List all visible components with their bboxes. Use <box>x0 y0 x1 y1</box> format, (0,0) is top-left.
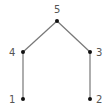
node-label-5: 5 <box>54 4 60 15</box>
node-4 <box>21 50 25 54</box>
edges <box>23 21 90 99</box>
node-label-1: 1 <box>9 94 15 105</box>
node-label-4: 4 <box>9 47 15 58</box>
node-label-2: 2 <box>96 94 102 105</box>
edge-4-5 <box>23 21 57 52</box>
node-1 <box>21 97 25 101</box>
node-3 <box>88 50 92 54</box>
node-label-3: 3 <box>96 47 102 58</box>
nodes <box>21 19 92 101</box>
node-5 <box>55 19 59 23</box>
graph-diagram: 1 2 3 4 5 <box>0 0 109 108</box>
edge-5-3 <box>57 21 90 52</box>
node-2 <box>88 97 92 101</box>
